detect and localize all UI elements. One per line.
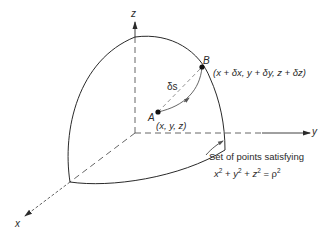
eq-plus-1: + xyxy=(222,168,233,179)
point-b-coords: (x + δx, y + δy, z + δz) xyxy=(213,68,306,78)
point-a-dot xyxy=(155,109,160,114)
z-axis-label: z xyxy=(131,9,136,19)
point-b-label: B xyxy=(203,56,210,66)
x-axis xyxy=(25,133,135,216)
sphere-outline xyxy=(68,36,225,183)
eq-rho-exp: 2 xyxy=(277,167,281,174)
eq-plus-2: + xyxy=(242,168,253,179)
point-a-label: A xyxy=(148,113,155,123)
point-a-coords: (x, y, z) xyxy=(156,121,186,131)
sphere-octant-diagram xyxy=(0,0,334,236)
eq-equals: = xyxy=(261,168,272,179)
arc-length-label: δs xyxy=(167,82,178,92)
y-axis-label: y xyxy=(312,127,317,137)
sphere-equation: x2 + y2 + z2 = ρ2 xyxy=(214,168,281,179)
chord-ab xyxy=(158,67,202,112)
annotation-text: Set of points satisfying xyxy=(209,152,304,162)
x-axis-label: x xyxy=(15,219,20,229)
